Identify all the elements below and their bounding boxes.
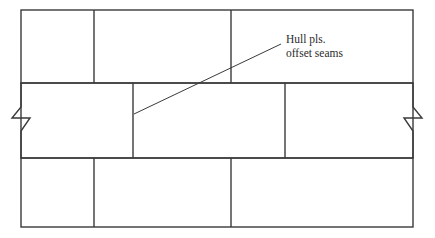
annotation-line-2: offset seams — [286, 47, 343, 59]
diagram-canvas: Hull pls. offset seams — [0, 0, 435, 238]
annotation-line-1: Hull pls. — [286, 33, 326, 46]
annotation-leader-line — [134, 44, 281, 114]
lower-strake-band — [21, 158, 413, 227]
upper-strake-outline — [21, 10, 413, 83]
middle-strake-band — [21, 83, 413, 158]
lower-strake-outline — [21, 158, 413, 227]
hull-plating-diagram: Hull pls. offset seams — [0, 0, 435, 238]
upper-strake-band — [21, 10, 413, 83]
middle-strake-outline — [21, 83, 413, 158]
